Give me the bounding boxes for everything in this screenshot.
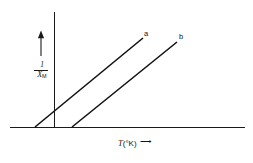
series-label-a: a — [144, 30, 148, 38]
y-axis-label-subscript: M — [42, 73, 47, 79]
y-axis-label-numerator: 1 — [29, 61, 55, 69]
series-label-b: b — [179, 33, 183, 41]
x-axis-label-units: (°K) — [123, 139, 137, 148]
y-axis-label-denominator: XM — [29, 69, 55, 80]
x-axis-arrow-icon: ⟶ — [140, 138, 151, 146]
curie-weiss-figure: 1 XM T(°K)⟶ a b — [0, 0, 253, 163]
x-axis-label: T(°K)⟶ — [118, 139, 151, 148]
y-axis-arrow-icon — [38, 31, 44, 57]
y-axis-label: 1 XM — [29, 61, 55, 80]
